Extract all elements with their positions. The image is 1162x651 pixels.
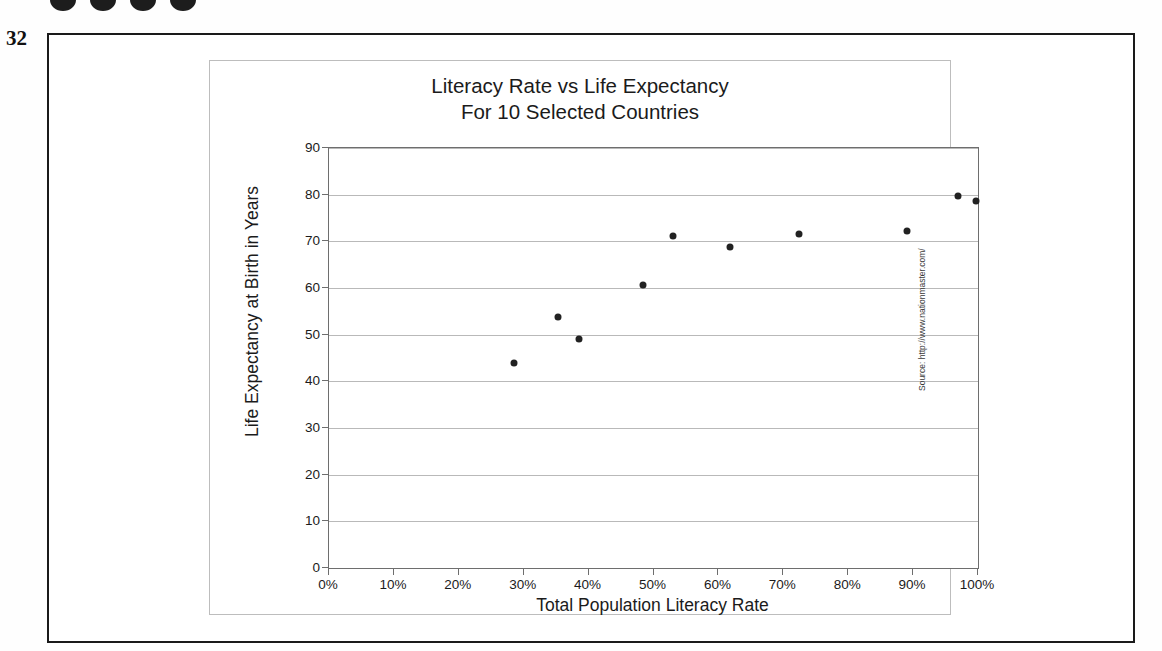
x-tick-label: 80% [834, 577, 861, 592]
gridline [329, 148, 978, 149]
x-tick-mark [458, 569, 459, 575]
x-tick-label: 30% [509, 577, 536, 592]
data-point [795, 230, 802, 237]
binding-hole [50, 0, 76, 11]
x-tick-mark [782, 569, 783, 575]
x-tick-label: 50% [639, 577, 666, 592]
data-point [904, 227, 911, 234]
x-tick-mark [977, 569, 978, 575]
x-tick-mark [912, 569, 913, 575]
data-point [575, 335, 582, 342]
gridline [329, 195, 978, 196]
y-axis-tick-labels: 0102030405060708090 [270, 147, 320, 567]
x-tick-mark [653, 569, 654, 575]
chart-title: Literacy Rate vs Life Expectancy For 10 … [210, 73, 950, 125]
x-tick-label: 90% [899, 577, 926, 592]
x-axis-tick-labels: 0%10%20%30%40%50%60%70%80%90%100% [328, 569, 977, 593]
y-tick-label: 50 [305, 326, 320, 341]
y-tick-label: 20 [305, 466, 320, 481]
x-axis-title: Total Population Literacy Rate [328, 595, 977, 616]
figure-frame: Literacy Rate vs Life Expectancy For 10 … [47, 33, 1135, 643]
x-tick-mark [717, 569, 718, 575]
y-tick-label: 70 [305, 233, 320, 248]
x-tick-mark [847, 569, 848, 575]
x-tick-label: 10% [379, 577, 406, 592]
y-tick-label: 80 [305, 186, 320, 201]
y-tick-label: 30 [305, 420, 320, 435]
chart-title-line2: For 10 Selected Countries [210, 99, 950, 125]
y-tick-label: 10 [305, 513, 320, 528]
data-point [973, 198, 980, 205]
plot-area [328, 147, 979, 569]
x-tick-label: 60% [704, 577, 731, 592]
x-tick-label: 40% [574, 577, 601, 592]
data-point [669, 232, 676, 239]
binding-hole [90, 0, 116, 11]
y-tick-label: 40 [305, 373, 320, 388]
gridline [329, 428, 978, 429]
data-point [510, 360, 517, 367]
data-point [640, 282, 647, 289]
x-tick-label: 70% [769, 577, 796, 592]
y-tick-label: 0 [312, 560, 320, 575]
x-tick-mark [588, 569, 589, 575]
gridline [329, 521, 978, 522]
gridline [329, 241, 978, 242]
y-tick-label: 60 [305, 280, 320, 295]
gridline [329, 381, 978, 382]
data-point [727, 243, 734, 250]
gridline [329, 475, 978, 476]
x-tick-mark [328, 569, 329, 575]
x-tick-label: 100% [960, 577, 995, 592]
x-tick-mark [523, 569, 524, 575]
chart-container: Literacy Rate vs Life Expectancy For 10 … [209, 60, 951, 615]
binding-hole [170, 0, 196, 11]
chart-title-line1: Literacy Rate vs Life Expectancy [210, 73, 950, 99]
y-axis-title: Life Expectancy at Birth in Years [242, 122, 263, 502]
binding-holes [0, 0, 1162, 16]
gridline [329, 335, 978, 336]
x-tick-mark [393, 569, 394, 575]
y-tick-label: 90 [305, 140, 320, 155]
source-note: Source: http://www.nationmaster.com/ [917, 171, 927, 391]
data-point [954, 193, 961, 200]
binding-hole [130, 0, 156, 11]
gridline [329, 288, 978, 289]
data-point [555, 313, 562, 320]
x-tick-label: 0% [318, 577, 338, 592]
x-tick-label: 20% [444, 577, 471, 592]
page-number: 32 [6, 26, 27, 51]
